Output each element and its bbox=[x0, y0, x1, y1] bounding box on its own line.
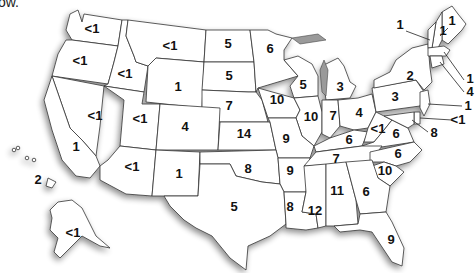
state-value-nc: 6 bbox=[394, 146, 401, 161]
state-value-wy: 1 bbox=[174, 79, 181, 94]
state-value-ct: 4 bbox=[466, 84, 474, 99]
state-value-tx: 5 bbox=[230, 199, 237, 214]
state-value-ak: <1 bbox=[66, 225, 81, 240]
state-value-ok: 8 bbox=[244, 161, 251, 176]
state-value-ar: 9 bbox=[286, 163, 293, 178]
leader-line-ma bbox=[444, 52, 464, 80]
state-ma bbox=[428, 46, 450, 56]
leader-line-vt bbox=[406, 31, 430, 40]
leader-line-nj bbox=[428, 104, 462, 106]
state-value-ga: 6 bbox=[362, 184, 369, 199]
state-value-al: 11 bbox=[330, 183, 344, 198]
state-value-ia: 10 bbox=[270, 92, 284, 107]
state-value-la: 8 bbox=[286, 199, 293, 214]
state-value-nh: 1 bbox=[448, 13, 455, 28]
state-value-ks: 14 bbox=[237, 126, 252, 141]
state-value-fl: 9 bbox=[387, 232, 394, 247]
state-value-tn: 7 bbox=[332, 151, 339, 166]
lake-superior bbox=[292, 34, 326, 44]
state-value-nm: 1 bbox=[175, 166, 182, 181]
state-value-wi: 5 bbox=[299, 77, 306, 92]
state-value-de: <1 bbox=[451, 112, 466, 127]
state-nj bbox=[420, 90, 430, 116]
state-value-pa: 3 bbox=[391, 89, 398, 104]
state-value-wa: <1 bbox=[85, 21, 100, 36]
state-value-ne: 7 bbox=[225, 98, 232, 113]
hawaii-island bbox=[16, 146, 20, 150]
leader-line-de bbox=[420, 118, 452, 120]
state-value-sd: 5 bbox=[225, 68, 232, 83]
hawaii-island bbox=[25, 156, 29, 160]
state-value-mt: <1 bbox=[163, 38, 178, 53]
state-value-mn: 6 bbox=[266, 41, 273, 56]
state-value-wv: <1 bbox=[371, 121, 386, 136]
state-value-oh: 4 bbox=[355, 105, 363, 120]
state-value-ca: 1 bbox=[72, 139, 79, 154]
leader-line-ct bbox=[440, 62, 464, 92]
state-value-il: 10 bbox=[304, 109, 318, 124]
hawaii-island bbox=[32, 158, 36, 162]
state-value-az: <1 bbox=[125, 159, 140, 174]
state-value-ky: 6 bbox=[345, 132, 352, 147]
state-value-md: 8 bbox=[430, 125, 437, 140]
state-value-nd: 5 bbox=[224, 36, 231, 51]
state-value-in: 7 bbox=[329, 108, 336, 123]
state-ct bbox=[430, 56, 444, 68]
state-value-or: <1 bbox=[73, 53, 88, 68]
state-value-co: 4 bbox=[181, 119, 189, 134]
state-value-mo: 9 bbox=[282, 131, 289, 146]
state-value-vt: 1 bbox=[396, 17, 403, 32]
hawaii-island bbox=[12, 148, 16, 152]
state-hi bbox=[46, 178, 56, 188]
state-value-hi: 2 bbox=[34, 172, 41, 187]
state-value-id: <1 bbox=[118, 66, 133, 81]
state-value-mi: 3 bbox=[336, 79, 343, 94]
state-value-nv: <1 bbox=[88, 108, 103, 123]
state-value-ms: 12 bbox=[308, 203, 322, 218]
state-value-nj: 1 bbox=[464, 98, 471, 113]
us-map: <1<1<1<1155653710107432<1<141496<161<118… bbox=[0, 0, 476, 273]
state-value-ut: <1 bbox=[133, 111, 148, 126]
state-value-ny: 2 bbox=[406, 68, 413, 83]
state-value-va: 6 bbox=[392, 126, 399, 141]
state-value-sc: 10 bbox=[378, 163, 392, 178]
